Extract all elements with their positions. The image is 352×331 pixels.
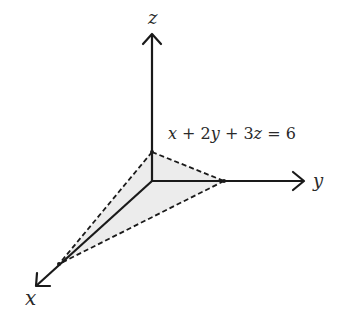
- x-axis-label: x: [25, 286, 36, 310]
- plane-equation: x + 2y + 3z = 6: [168, 124, 296, 143]
- y-intercept-point: [222, 179, 226, 183]
- plane-region: [59, 152, 224, 264]
- plane-diagram: z y x x + 2y + 3z = 6: [0, 0, 352, 331]
- x-axis: [36, 181, 152, 286]
- y-axis-label: y: [312, 170, 324, 191]
- z-intercept-point: [150, 150, 154, 154]
- x-intercept-point: [57, 262, 61, 266]
- z-axis-label: z: [147, 7, 158, 28]
